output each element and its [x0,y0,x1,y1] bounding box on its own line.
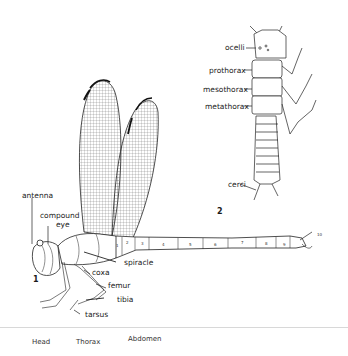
figure-number-adult: 1 [33,276,39,284]
abdomen [116,236,306,258]
label-metathorax: metathorax [205,103,249,111]
nymph [240,26,316,200]
adult-dragonfly [32,80,312,314]
segment-3: 3 [141,242,144,246]
label-mesothorax: mesothorax [203,86,248,94]
label-antenna: antenna [22,192,53,200]
label-tarsus: tarsus [85,311,108,319]
head [32,242,60,276]
caption-head: Head [32,339,50,346]
caption-abdomen: Abdomen [128,336,162,343]
segment-1: 1 [116,244,119,248]
segment-6: 6 [214,243,217,247]
label-spiracle: spiracle [124,259,153,267]
nymph-head [254,30,286,58]
label-coxa: coxa [92,269,110,277]
prothorax-segment [252,60,282,78]
segment-4: 4 [162,243,165,247]
label-compound-eye-line2: eye [56,221,70,229]
metathorax-segment [252,96,282,114]
segment-9: 9 [283,243,286,247]
label-compound-eye-line1: compound [40,212,80,220]
nymph-abdomen [254,116,280,184]
segment-5: 5 [189,243,192,247]
caption-thorax: Thorax [76,339,100,346]
mesothorax-segment [252,78,282,96]
segment-8: 8 [265,242,268,246]
divider [0,327,348,328]
label-prothorax: prothorax [209,67,246,75]
segment-2: 2 [126,241,129,245]
label-tibia: tibia [117,296,133,304]
segment-10: 10 [317,233,322,237]
figure-number-nymph: 2 [217,208,223,216]
label-femur: femur [108,282,130,290]
label-ocelli: ocelli [225,44,245,52]
segment-7: 7 [241,241,244,245]
insect-illustration [0,0,348,356]
label-cerci: cerci [228,181,246,189]
